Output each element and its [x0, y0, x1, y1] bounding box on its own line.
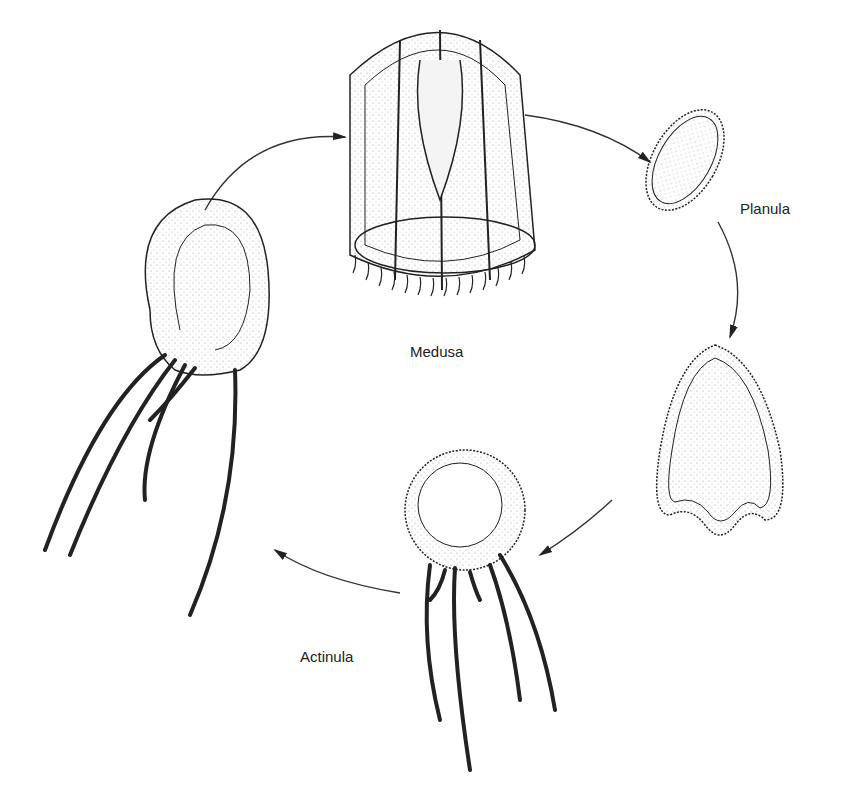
label-actinula: Actinula [300, 648, 353, 665]
label-medusa: Medusa [410, 343, 463, 360]
medusa-illustration [350, 30, 535, 296]
arrow-polyp-to-medusa [205, 136, 345, 210]
arrow-medusa-to-planula [525, 115, 650, 162]
settled-planula-illustration [657, 345, 783, 535]
life-cycle-diagram [0, 0, 842, 794]
polyp-illustration [45, 199, 269, 615]
actinula-illustration [405, 450, 555, 770]
arrow-planula-to-settled [718, 222, 738, 337]
arrow-actinula-to-polyp [275, 550, 400, 593]
arrow-settled-to-actinula [540, 500, 612, 555]
label-planula: Planula [740, 200, 790, 217]
